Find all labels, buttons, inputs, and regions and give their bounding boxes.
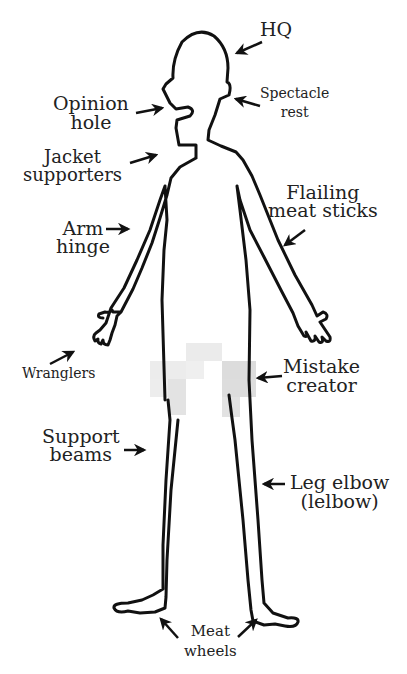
label-hq: HQ [260, 20, 292, 39]
label-jacket-supporters: Jacket supporters [23, 148, 122, 184]
label-leg-elbow: Leg elbow (lelbow) [290, 473, 389, 510]
arrow-flailing-meat-sticks [285, 230, 305, 245]
arrow-hq [237, 42, 262, 53]
label-flailing-meat-sticks: Flailing meat sticks [268, 183, 378, 219]
label-meat-wheels: Meat wheels [184, 622, 237, 661]
label-spectacle-rest: Spectacle rest [260, 84, 329, 122]
arrow-wranglers [50, 352, 73, 364]
arrow-spectacle-rest [236, 99, 260, 106]
label-opinion-hole: Opinion hole [53, 94, 129, 131]
label-wranglers: Wranglers [22, 366, 95, 380]
arrow-jacket-supporters [130, 155, 156, 163]
arrow-opinion-hole [136, 108, 162, 113]
label-mistake-creator: Mistake creator [283, 357, 360, 394]
arrow-meat-wheels-right [238, 620, 256, 637]
label-arm-hinge: Arm hinge [56, 219, 110, 255]
arrow-mistake-creator [258, 376, 282, 378]
label-support-beams: Support beams [42, 427, 120, 464]
arrow-meat-wheels-left [161, 619, 178, 638]
